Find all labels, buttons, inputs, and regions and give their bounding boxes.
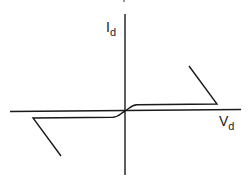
top-edge-mark: [123, 0, 125, 2]
curve-negative-branch: [33, 111, 125, 156]
x-axis-label-subscript: d: [228, 120, 234, 132]
x-axis-label: Vd: [219, 114, 234, 132]
y-axis-label-subscript: d: [110, 26, 116, 38]
iv-curve-svg: [0, 0, 249, 181]
x-axis-label-main: V: [219, 113, 228, 129]
y-axis-label: Id: [106, 20, 116, 38]
curve-positive-branch: [125, 66, 217, 111]
